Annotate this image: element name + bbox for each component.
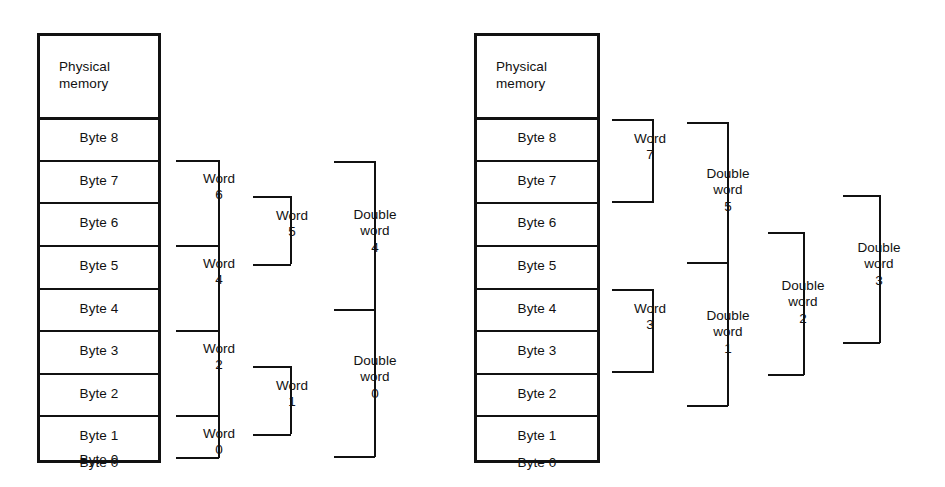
left-cell-byte-8: Byte 8 — [37, 117, 161, 160]
right-cell-byte-5: Byte 5 — [474, 245, 600, 288]
left-cell-byte-4: Byte 4 — [37, 288, 161, 330]
right-cell-byte-6: Byte 6 — [474, 202, 600, 245]
right-dword-3-label: Double word 3 — [840, 240, 918, 289]
right-dword-5-label: Double word 5 — [689, 166, 767, 215]
left-word-0-label: Word 0 — [186, 426, 252, 459]
left-word-2-label: Word 2 — [186, 341, 252, 374]
memory-alignment-figure: Physical memory Byte 8 Byte 7 Byte 6 Byt… — [0, 0, 945, 487]
left-dword-tick-arm — [334, 309, 375, 311]
right-memory-header: Physical memory — [474, 38, 600, 114]
right-cell-byte-4: Byte 4 — [474, 288, 600, 330]
right-word-7-label: Word 7 — [616, 131, 684, 164]
left-cell-byte-0-text: Byte 0 — [37, 420, 161, 487]
right-cell-byte-3: Byte 3 — [474, 330, 600, 373]
right-cell-byte-2: Byte 2 — [474, 373, 600, 415]
right-cell-byte-8: Byte 8 — [474, 117, 600, 160]
right-dword-1-bottom-arm — [687, 405, 728, 407]
left-cell-byte-6: Byte 6 — [37, 202, 161, 245]
right-dword-1-label: Double word 1 — [689, 308, 767, 357]
right-dword-2-label: Double word 2 — [764, 278, 842, 327]
right-word-3-bottom-arm — [612, 371, 654, 373]
left-dword-4-top-arm — [334, 161, 375, 163]
left-word-1-bottom-arm — [253, 434, 291, 436]
right-dword-2-top-arm — [768, 232, 804, 234]
left-cell-byte-3: Byte 3 — [37, 330, 161, 373]
left-cell-byte-5: Byte 5 — [37, 245, 161, 288]
left-memory-header: Physical memory — [37, 38, 161, 114]
left-dword-0-label: Double word 0 — [336, 353, 414, 402]
right-dword-5-top-arm — [687, 122, 728, 124]
right-word-7-bottom-arm — [612, 201, 654, 203]
left-word-1-top-arm — [253, 366, 291, 368]
right-dword-2-bottom-arm — [768, 374, 804, 376]
left-word-6-bottom-arm — [176, 245, 219, 247]
left-dword-4-label: Double word 4 — [336, 207, 414, 256]
left-cell-byte-7: Byte 7 — [37, 160, 161, 202]
left-word-6-label: Word 6 — [186, 171, 252, 204]
left-word-4-label: Word 4 — [186, 256, 252, 289]
left-cell-byte-2: Byte 2 — [37, 373, 161, 415]
right-dword-3-top-arm — [843, 195, 880, 197]
right-word-3-label: Word 3 — [616, 301, 684, 334]
right-cell-byte-7: Byte 7 — [474, 160, 600, 202]
left-word-5-bottom-arm — [253, 264, 291, 266]
left-word-2-bottom-arm — [176, 415, 219, 417]
right-word-3-top-arm — [612, 289, 654, 291]
right-word-7-top-arm — [612, 119, 654, 121]
left-word-5-top-arm — [253, 196, 291, 198]
left-word-6-top-arm — [176, 160, 219, 162]
left-word-4-bottom-arm — [176, 330, 219, 332]
left-word-5-label: Word 5 — [259, 208, 325, 241]
left-word-1-label: Word 1 — [259, 378, 325, 411]
right-cell-byte-0: Byte 0 — [474, 420, 600, 487]
right-dword-tick-arm — [687, 262, 728, 264]
right-dword-3-bottom-arm — [843, 342, 880, 344]
left-dword-0-bottom-arm — [334, 456, 375, 458]
